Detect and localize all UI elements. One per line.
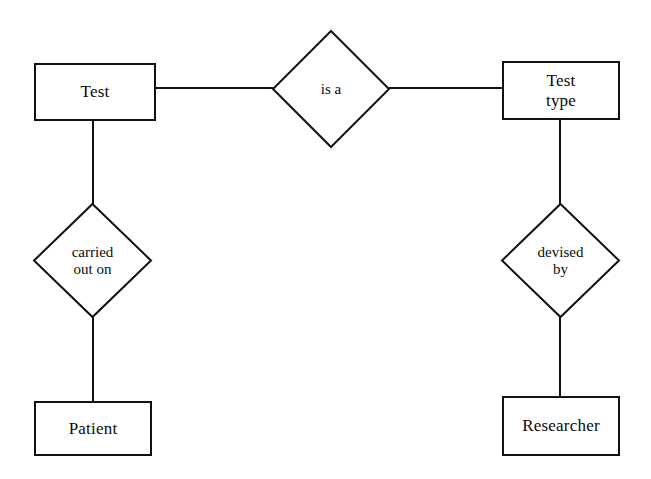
edge-carried-out-on-to-patient (92, 316, 94, 402)
entity-test-label: Test (81, 82, 110, 101)
entity-test-type[interactable]: Test type (502, 61, 620, 120)
edge-test-type-to-devised-by (559, 118, 561, 205)
diamond-shape-is-a (272, 30, 390, 148)
entity-researcher[interactable]: Researcher (502, 396, 620, 456)
entity-test[interactable]: Test (34, 63, 156, 121)
edge-devised-by-to-researcher (559, 316, 561, 397)
relationship-carried-out-on[interactable]: carried out on (33, 203, 152, 318)
diamond-shape-carried-out-on (33, 203, 152, 318)
entity-patient-label: Patient (69, 419, 118, 438)
entity-patient[interactable]: Patient (34, 401, 152, 456)
diamond-shape-devised-by (501, 203, 620, 318)
edge-test-to-is-a (155, 87, 273, 89)
er-diagram-canvas: Test Test type Patient Researcher is a c… (0, 0, 651, 479)
entity-test-type-label: Test type (546, 71, 576, 109)
edge-test-to-carried-out-on (92, 119, 94, 205)
edge-is-a-to-test-type (389, 87, 503, 89)
relationship-devised-by[interactable]: devised by (501, 203, 620, 318)
entity-researcher-label: Researcher (522, 416, 600, 435)
relationship-is-a[interactable]: is a (272, 30, 390, 148)
